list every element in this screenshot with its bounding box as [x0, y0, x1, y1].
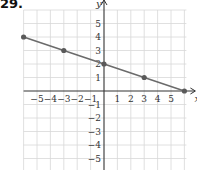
y-tick-label: −1	[88, 100, 101, 110]
x-tick-label: −2	[71, 94, 84, 104]
y-tick-label: −4	[88, 140, 102, 150]
x-tick-label: −3	[57, 94, 71, 104]
y-tick-label: 2	[95, 59, 101, 69]
data-point	[101, 61, 106, 66]
y-tick-label: −2	[88, 113, 101, 123]
data-point	[61, 48, 66, 53]
y-tick-label: −3	[88, 127, 102, 137]
x-tick-label: 2	[128, 94, 134, 104]
y-tick-label: 1	[95, 73, 101, 83]
y-tick-label: −5	[88, 154, 102, 164]
x-tick-label: −5	[30, 94, 44, 104]
y-axis-label: y	[95, 0, 102, 9]
data-point	[142, 75, 147, 80]
y-tick-label: 3	[95, 46, 101, 56]
x-tick-label: 1	[115, 94, 121, 104]
x-axis-label: x	[194, 93, 197, 104]
x-tick-label: 4	[155, 94, 161, 104]
data-point	[21, 34, 26, 39]
coordinate-graph: xy −5−4−3−2−11234554321−1−2−3−4−5	[0, 0, 197, 170]
grid-lines	[24, 10, 187, 170]
y-tick-label: 5	[95, 19, 101, 29]
y-tick-label: 4	[95, 32, 101, 42]
x-tick-label: 5	[168, 94, 174, 104]
data-point	[182, 88, 187, 93]
x-tick-label: 3	[141, 94, 147, 104]
x-tick-label: −4	[44, 94, 58, 104]
